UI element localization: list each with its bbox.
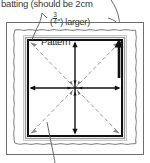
caption-line-2: (34") larger): [50, 12, 90, 27]
caption-line-2-suffix: ") larger): [57, 17, 90, 27]
diagram-container: batting (should be 2cm (34") larger) Pat…: [0, 0, 150, 163]
fraction-denominator: 4: [53, 19, 57, 26]
caption-line-1: batting (should be 2cm: [1, 0, 93, 9]
leader-line-batting-right-branch: [108, 18, 116, 22]
fraction-three-quarters: 34: [53, 12, 57, 26]
pattern-label: Pattern: [41, 37, 70, 47]
leader-line-batting-left-tick: [42, 13, 47, 18]
